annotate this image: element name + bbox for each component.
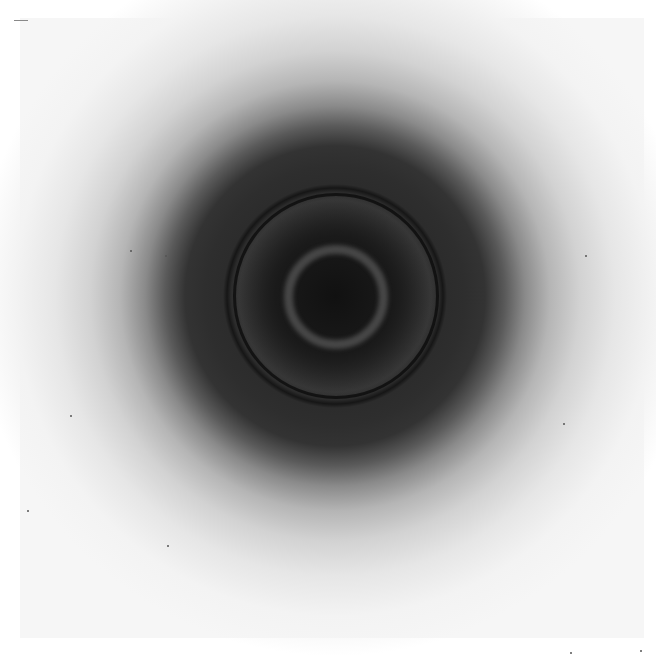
speck [563, 423, 565, 425]
speck [165, 255, 167, 257]
speck [640, 650, 642, 652]
speck [570, 652, 572, 654]
corner-mark [14, 20, 28, 21]
speck [130, 250, 132, 252]
speck [70, 415, 72, 417]
speck [27, 510, 29, 512]
speck [167, 545, 169, 547]
speck [585, 255, 587, 257]
outer-diffraction-ring [233, 193, 439, 399]
